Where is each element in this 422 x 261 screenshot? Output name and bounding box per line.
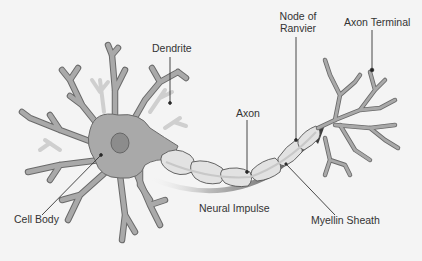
label-myelin-sheath: Myellin Sheath [311,214,380,226]
neuron-diagram: Dendrite Cell Body Axon Node of Ranvier … [0,0,422,261]
nucleus [111,133,129,153]
label-node-of-ranvier: Node of Ranvier [278,10,318,34]
label-neural-impulse: Neural Impulse [199,202,270,214]
label-node-of-ranvier-line2: Ranvier [278,22,318,34]
label-dendrite: Dendrite [152,42,192,54]
axon-terminal-fill [318,60,398,175]
label-cell-body: Cell Body [14,213,59,225]
label-node-of-ranvier-line1: Node of [278,10,318,22]
cell-body-shape [88,114,178,178]
label-axon: Axon [236,107,260,119]
label-axon-terminal: Axon Terminal [344,16,410,28]
